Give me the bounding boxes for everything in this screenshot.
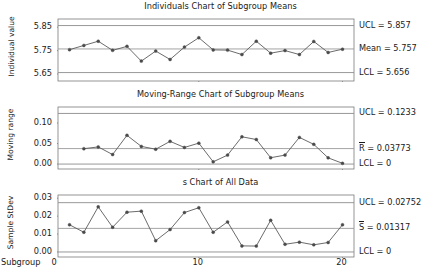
s-chart-ytick-label: 0.00 xyxy=(0,246,52,256)
individuals-chart-data-point xyxy=(125,45,128,48)
moving-range-chart-data-point xyxy=(327,156,330,159)
s-chart-frame xyxy=(58,195,354,257)
moving-range-chart-data-point xyxy=(125,134,128,137)
s-chart-center-label: S = 0.01317 xyxy=(359,222,410,232)
moving-range-chart-ytick-label: 0.05 xyxy=(0,138,52,148)
individuals-chart-data-point xyxy=(298,53,301,56)
moving-range-chart-data-point xyxy=(284,154,287,157)
moving-range-chart-plot xyxy=(57,106,355,170)
s-chart-data-point xyxy=(68,223,71,226)
moving-range-chart-ytick-label: 0.00 xyxy=(0,158,52,168)
individuals-chart-data-point xyxy=(312,40,315,43)
moving-range-chart-frame xyxy=(58,107,354,169)
moving-range-chart-data-point xyxy=(298,136,301,139)
s-chart-data-point xyxy=(255,245,258,248)
individuals-chart-data-point xyxy=(183,46,186,49)
moving-range-chart-data-point xyxy=(197,142,200,145)
individuals-chart-data-point xyxy=(111,49,114,52)
individuals-chart-data-point xyxy=(68,48,71,51)
moving-range-chart-data-point xyxy=(169,140,172,143)
individuals-chart-data-point xyxy=(82,44,85,47)
individuals-chart-center-label: Mean = 5.757 xyxy=(359,43,417,53)
moving-range-chart-data-point xyxy=(97,145,100,148)
moving-range-chart-ylabel: Moving range xyxy=(6,105,15,165)
moving-range-chart-data-point xyxy=(212,160,215,163)
s-chart-plot xyxy=(57,194,355,258)
s-chart-data-point xyxy=(125,211,128,214)
individuals-chart-data-point xyxy=(140,60,143,63)
moving-range-chart-data-point xyxy=(111,153,114,156)
individuals-chart-plot xyxy=(57,18,355,82)
moving-range-chart-data-point xyxy=(154,148,157,151)
moving-range-chart-data-point xyxy=(226,154,229,157)
individuals-chart-data-point xyxy=(240,53,243,56)
moving-range-chart-title: Moving-Range Chart of Subgroup Means xyxy=(0,89,441,99)
s-chart-ytick-label: 0.03 xyxy=(0,192,52,202)
s-chart-data-point xyxy=(154,239,157,242)
s-chart-data-point xyxy=(298,241,301,244)
s-chart-data-point xyxy=(212,231,215,234)
s-chart-data-point xyxy=(183,211,186,214)
s-chart-ytick-label: 0.02 xyxy=(0,210,52,220)
moving-range-chart-data-point xyxy=(312,143,315,146)
individuals-chart-svg xyxy=(57,18,355,82)
individuals-chart-data-point xyxy=(226,49,229,52)
moving-range-chart-svg xyxy=(57,106,355,170)
moving-range-chart-center-label: R = 0.03773 xyxy=(359,143,411,153)
s-chart-data-point xyxy=(284,243,287,246)
moving-range-chart-ucl-label: UCL = 0.1233 xyxy=(359,107,416,117)
individuals-chart-frame xyxy=(58,19,354,81)
s-chart-data-point xyxy=(341,223,344,226)
s-chart-data-point xyxy=(169,228,172,231)
s-chart-series-line xyxy=(70,207,343,246)
individuals-chart-ytick-label: 5.75 xyxy=(0,45,52,55)
s-chart-data-point xyxy=(269,219,272,222)
individuals-chart-data-point xyxy=(341,48,344,51)
individuals-chart-title: Individuals Chart of Subgroup Means xyxy=(0,1,441,11)
s-chart-data-point xyxy=(240,244,243,247)
control-chart-figure: Individuals Chart of Subgroup Means Indi… xyxy=(0,0,441,279)
individuals-chart-ytick-label: 5.65 xyxy=(0,68,52,78)
s-chart-ucl-label: UCL = 0.02752 xyxy=(359,197,421,207)
individuals-chart-data-point xyxy=(197,36,200,39)
x-axis-tick-label: 10 xyxy=(178,257,218,267)
moving-range-chart-ytick-label: 0.10 xyxy=(0,117,52,127)
moving-range-chart-data-point xyxy=(341,162,344,165)
moving-range-chart-lcl-label: LCL = 0 xyxy=(359,158,391,168)
individuals-chart-data-point xyxy=(97,40,100,43)
x-axis-tick-label: 0 xyxy=(34,257,74,267)
moving-range-chart-panel: Moving-Range Chart of Subgroup Means Mov… xyxy=(0,88,441,176)
individuals-chart-data-point xyxy=(269,52,272,55)
moving-range-chart-data-point xyxy=(255,138,258,141)
s-chart-data-point xyxy=(197,206,200,209)
individuals-chart-data-point xyxy=(327,51,330,54)
s-chart-data-point xyxy=(140,210,143,213)
s-chart-data-point xyxy=(226,220,229,223)
moving-range-chart-data-point xyxy=(82,147,85,150)
x-axis-tick-label: 20 xyxy=(322,257,362,267)
s-chart-data-point xyxy=(312,243,315,246)
s-chart-data-point xyxy=(327,241,330,244)
individuals-chart-ytick-label: 5.85 xyxy=(0,21,52,31)
moving-range-chart-data-point xyxy=(140,145,143,148)
s-chart-lcl-label: LCL = 0 xyxy=(359,246,391,256)
individuals-chart-lcl-label: LCL = 5.656 xyxy=(359,67,409,77)
individuals-chart-data-point xyxy=(284,49,287,52)
individuals-chart-data-point xyxy=(212,48,215,51)
individuals-chart-ucl-label: UCL = 5.857 xyxy=(359,20,411,30)
s-chart-ytick-label: 0.01 xyxy=(0,228,52,238)
individuals-chart-data-point xyxy=(255,40,258,43)
s-chart-panel: s Chart of All Data Sample StDev Subgrou… xyxy=(0,176,441,279)
moving-range-chart-data-point xyxy=(240,135,243,138)
s-chart-data-point xyxy=(111,226,114,229)
moving-range-chart-series-line xyxy=(84,135,343,163)
individuals-chart-data-point xyxy=(169,58,172,61)
individuals-chart-series-line xyxy=(70,38,343,61)
s-chart-title: s Chart of All Data xyxy=(0,177,441,187)
moving-range-chart-data-point xyxy=(269,156,272,159)
s-chart-data-point xyxy=(82,231,85,234)
s-chart-svg xyxy=(57,194,355,258)
individuals-chart-data-point xyxy=(154,50,157,53)
moving-range-chart-data-point xyxy=(183,146,186,149)
s-chart-data-point xyxy=(97,205,100,208)
